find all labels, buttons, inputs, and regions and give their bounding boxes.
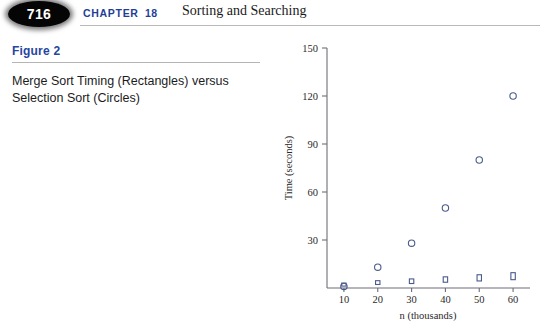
figure-label: Figure 2 xyxy=(12,44,267,58)
figure-chart: 306090120150 102030405060 n (thousands) … xyxy=(278,38,543,328)
figure-caption-block: Figure 2 Merge Sort Timing (Rectangles) … xyxy=(12,44,267,107)
data-point-marker xyxy=(376,281,380,285)
header-divider xyxy=(80,25,540,26)
data-point-markers xyxy=(341,93,517,290)
data-point-marker xyxy=(443,277,447,282)
data-point-marker xyxy=(511,273,515,280)
data-point-marker xyxy=(510,93,516,99)
figure-divider xyxy=(12,62,260,63)
chapter-title: Sorting and Searching xyxy=(182,3,306,19)
data-point-marker xyxy=(342,283,346,286)
x-axis-tick-labels: 102030405060 xyxy=(339,294,519,305)
x-tick-label: 40 xyxy=(440,294,451,305)
page-number: 716 xyxy=(8,1,70,27)
x-axis-ticks xyxy=(344,288,513,292)
data-point-marker xyxy=(476,157,482,163)
y-axis-title: Time (seconds) xyxy=(283,135,295,200)
scatter-plot-svg: 306090120150 102030405060 n (thousands) … xyxy=(278,38,543,328)
data-point-marker xyxy=(409,279,413,284)
running-header: 716 CHAPTER 18 Sorting and Searching xyxy=(0,0,545,34)
data-point-marker xyxy=(442,205,448,211)
y-tick-label: 30 xyxy=(308,235,319,246)
x-tick-label: 30 xyxy=(406,294,417,305)
x-tick-label: 20 xyxy=(373,294,384,305)
chapter-number-label: 18 xyxy=(145,7,158,19)
data-point-marker xyxy=(477,275,481,281)
y-axis-tick-labels: 306090120150 xyxy=(302,43,318,246)
y-axis-ticks xyxy=(322,48,327,240)
x-axis-title: n (thousands) xyxy=(400,310,457,322)
x-tick-label: 10 xyxy=(339,294,350,305)
page-number-badge: 716 xyxy=(8,1,70,27)
y-tick-label: 60 xyxy=(308,187,319,198)
y-tick-label: 150 xyxy=(302,43,318,54)
figure-caption-text: Merge Sort Timing (Rectangles) versus Se… xyxy=(12,73,267,107)
data-point-marker xyxy=(408,240,414,246)
x-tick-label: 50 xyxy=(474,294,485,305)
y-tick-label: 120 xyxy=(302,91,318,102)
x-tick-label: 60 xyxy=(508,294,519,305)
data-point-marker xyxy=(375,264,381,270)
chapter-word-label: CHAPTER xyxy=(83,7,139,19)
y-tick-label: 90 xyxy=(308,139,319,150)
